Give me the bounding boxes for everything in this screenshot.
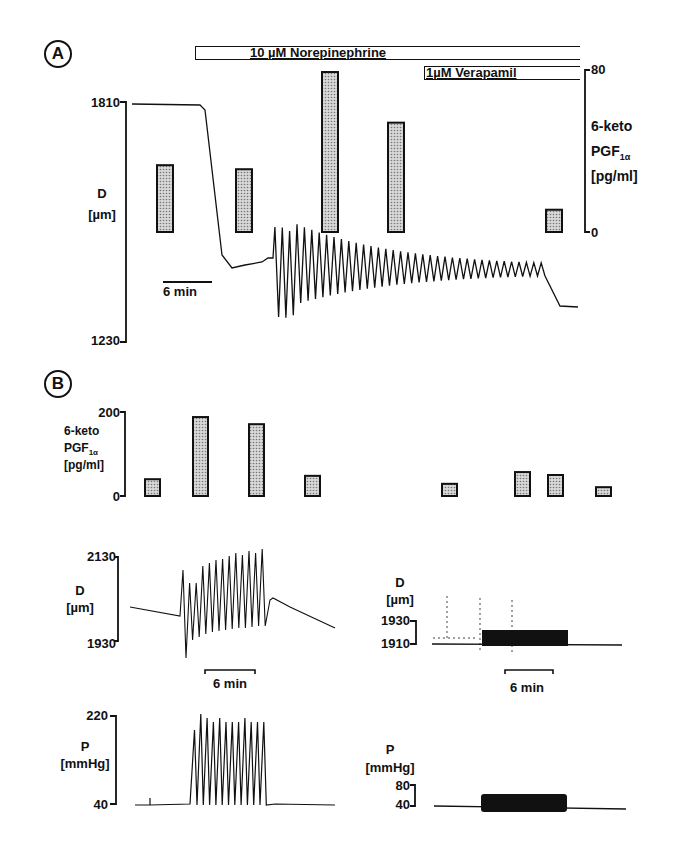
br-reference-lines <box>433 596 512 655</box>
a-bar-2 <box>236 169 252 232</box>
br-pressure-oscillation-block <box>481 794 567 812</box>
bl-diameter-trace <box>130 549 335 658</box>
a-right-axis <box>585 70 590 232</box>
bl-scale-bar <box>205 670 255 674</box>
figure-graphics <box>0 0 685 847</box>
a-diameter-trace <box>132 104 578 318</box>
a-bar-3 <box>322 72 338 232</box>
b-bar-8 <box>596 487 611 496</box>
b-bar-6 <box>515 472 530 496</box>
br-diameter-oscillation-block <box>482 630 568 646</box>
b-bar-5 <box>442 484 457 496</box>
a-bar-4 <box>388 123 404 232</box>
b-bar-3 <box>249 424 264 496</box>
bl-d-axis <box>114 557 118 641</box>
bl-p-axis <box>110 716 116 804</box>
a-bar-5 <box>546 210 562 232</box>
b-bar-1 <box>145 479 160 496</box>
br-scale-bar <box>505 670 553 674</box>
b-bar-axis <box>120 412 125 496</box>
b-bar-7 <box>548 475 563 496</box>
a-bar-1 <box>157 165 173 232</box>
a-left-axis <box>120 102 126 342</box>
br-d-axis <box>410 621 416 644</box>
b-bar-4 <box>305 476 320 496</box>
b-bar-2 <box>193 417 208 496</box>
br-p-axis <box>410 785 415 806</box>
bl-pressure-trace <box>135 714 335 805</box>
